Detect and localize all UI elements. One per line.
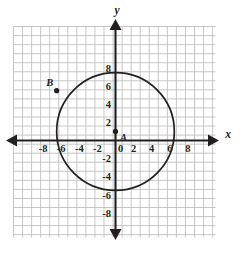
point-b-dot <box>54 88 59 93</box>
y-tick-label: 8 <box>106 63 111 74</box>
x-tick-label: 2 <box>131 143 136 154</box>
y-tick-label: -8 <box>102 208 111 219</box>
y-tick-label: -4 <box>102 171 111 182</box>
y-tick-label: -2 <box>102 153 111 164</box>
point-b-label: B <box>45 77 53 88</box>
x-axis-label: x <box>224 128 231 140</box>
x-tick-label: 4 <box>149 143 155 154</box>
point-a-dot <box>113 129 118 134</box>
x-tick-label: -6 <box>57 143 66 154</box>
y-tick-label: 6 <box>106 81 111 92</box>
x-tick-label: -8 <box>39 143 48 154</box>
y-tick-label: -6 <box>102 190 111 201</box>
graph-canvas: -8-6-4-2024688642-2-4-6-8 AB x y <box>0 0 246 257</box>
y-tick-label: 4 <box>106 99 112 110</box>
point-a-label: A <box>119 132 127 143</box>
figure-background <box>0 0 246 257</box>
coordinate-plane-figure: -8-6-4-2024688642-2-4-6-8 AB x y <box>0 0 246 257</box>
x-tick-label: -2 <box>93 143 102 154</box>
x-tick-label: -4 <box>75 143 84 154</box>
y-axis-label: y <box>112 4 120 17</box>
x-tick-label: 8 <box>185 143 190 154</box>
x-tick-label: 0 <box>118 143 123 154</box>
x-tick-label: 6 <box>167 143 172 154</box>
y-tick-label: 2 <box>106 117 111 128</box>
